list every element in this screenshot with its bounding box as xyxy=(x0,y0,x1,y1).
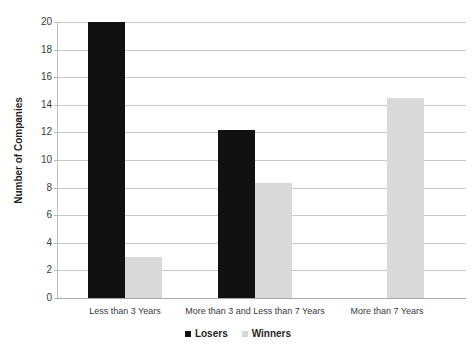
y-axis-tick-label: 6 xyxy=(26,210,52,220)
bar-winners-2[interactable] xyxy=(255,183,292,298)
y-axis-tick-label: 12 xyxy=(26,127,52,137)
legend-item-losers[interactable]: Losers xyxy=(185,328,228,339)
chart-legend: LosersWinners xyxy=(0,328,476,339)
bar-winners-3[interactable] xyxy=(387,98,424,298)
y-axis-title: Number of Companies xyxy=(8,0,28,300)
legend-item-winners[interactable]: Winners xyxy=(242,328,291,339)
bar-winners-1[interactable] xyxy=(125,257,162,298)
y-axis-tick-label: 18 xyxy=(26,45,52,55)
legend-label: Losers xyxy=(195,328,228,339)
y-axis-title-text: Number of Companies xyxy=(13,97,24,204)
y-axis-tick-label: 0 xyxy=(26,293,52,303)
y-axis-tick-label: 8 xyxy=(26,183,52,193)
bar-chart: Number of Companies 20181614121086420 Le… xyxy=(0,0,476,345)
legend-swatch-icon xyxy=(185,331,191,337)
gridline xyxy=(58,298,466,299)
legend-swatch-icon xyxy=(242,331,248,337)
plot-area xyxy=(58,22,466,298)
y-axis-tick-label: 10 xyxy=(26,155,52,165)
legend-label: Winners xyxy=(252,328,291,339)
bar-losers-2[interactable] xyxy=(218,130,255,298)
y-axis-tick-label: 14 xyxy=(26,100,52,110)
x-axis-category-label: More than 7 Years xyxy=(277,306,476,316)
y-axis-tick-label: 16 xyxy=(26,72,52,82)
bar-losers-1[interactable] xyxy=(88,22,125,298)
y-axis-tick-label: 4 xyxy=(26,238,52,248)
y-axis-tick-label: 20 xyxy=(26,17,52,27)
y-axis-tick-label: 2 xyxy=(26,265,52,275)
